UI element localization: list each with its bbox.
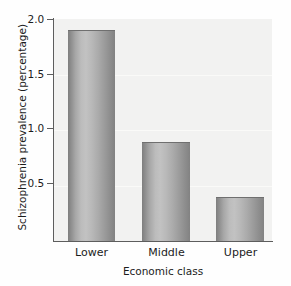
bar-lower [68, 30, 115, 241]
y-axis-line [53, 18, 54, 242]
y-tick-mark-1-5 [47, 74, 54, 75]
plot-area [53, 19, 272, 241]
x-axis-title: Economic class [53, 266, 273, 277]
y-tick-mark-2-0 [47, 19, 54, 20]
bar-middle [142, 142, 190, 241]
bar-upper [216, 197, 264, 241]
x-category-label-upper: Upper [194, 247, 287, 258]
y-axis-title: Schizophrenia prevalence (percentage) [17, 12, 28, 242]
y-tick-mark-0-5 [47, 183, 54, 184]
x-axis-line [53, 241, 273, 242]
bar-chart-figure: 2.0 1.5 1.0 0.5 Lower Middle Upper Econo… [0, 0, 291, 286]
y-tick-mark-1-0 [47, 128, 54, 129]
